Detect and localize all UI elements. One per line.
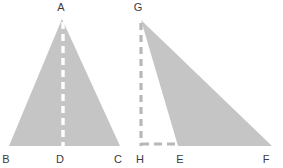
vertex-label-d: D bbox=[56, 153, 64, 165]
vertex-label-g: G bbox=[134, 1, 143, 13]
vertex-label-c: C bbox=[114, 153, 122, 165]
vertex-label-b: B bbox=[2, 153, 9, 165]
vertex-label-a: A bbox=[57, 1, 65, 13]
vertex-label-f: F bbox=[263, 153, 270, 165]
right-figure-group: G E F H bbox=[134, 1, 272, 165]
vertex-label-h: H bbox=[136, 153, 144, 165]
geometry-figure-canvas: A B C D G E F H bbox=[0, 0, 283, 168]
left-figure-group: A B C D bbox=[2, 1, 122, 165]
triangle-gef-shape bbox=[141, 20, 272, 146]
vertex-label-e: E bbox=[176, 153, 183, 165]
